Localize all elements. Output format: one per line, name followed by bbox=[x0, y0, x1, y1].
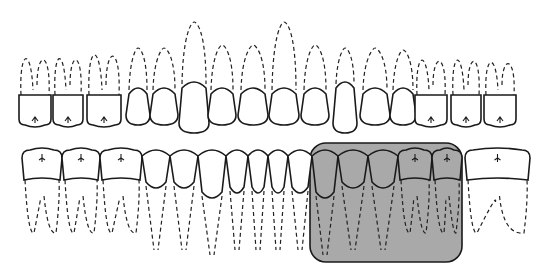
upper-tooth bbox=[208, 45, 236, 125]
lower-tooth bbox=[170, 150, 198, 250]
upper-tooth bbox=[390, 50, 416, 125]
upper-tooth bbox=[19, 59, 51, 127]
upper-tooth bbox=[301, 45, 329, 125]
lower-tooth bbox=[22, 148, 62, 233]
lower-tooth bbox=[100, 148, 142, 233]
lower-tooth bbox=[198, 150, 226, 255]
upper-tooth bbox=[484, 62, 516, 127]
lower-tooth bbox=[268, 150, 288, 250]
lower-tooth bbox=[226, 150, 248, 250]
upper-tooth bbox=[179, 22, 209, 133]
lower-tooth bbox=[248, 150, 268, 250]
upper-arch bbox=[19, 22, 516, 133]
dental-chart: Dental arch diagram (upper and lower tee… bbox=[0, 0, 537, 278]
upper-tooth bbox=[87, 55, 121, 127]
upper-tooth bbox=[126, 48, 150, 125]
upper-tooth bbox=[360, 48, 390, 125]
lower-tooth bbox=[142, 150, 170, 250]
lower-tooth bbox=[288, 150, 312, 250]
upper-tooth bbox=[415, 60, 447, 127]
upper-tooth bbox=[150, 48, 178, 125]
teeth-diagram bbox=[0, 0, 537, 278]
lower-tooth bbox=[465, 148, 530, 233]
upper-tooth bbox=[269, 22, 299, 125]
upper-tooth bbox=[238, 45, 268, 125]
upper-tooth bbox=[333, 48, 357, 133]
upper-tooth bbox=[451, 60, 481, 127]
upper-tooth bbox=[53, 59, 83, 127]
lower-tooth bbox=[62, 148, 100, 233]
